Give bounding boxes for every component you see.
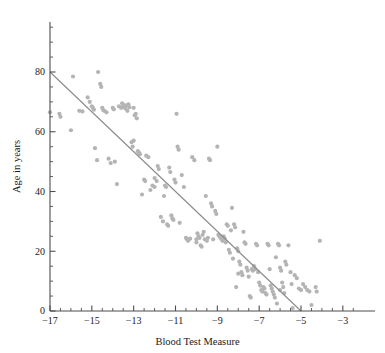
data-point — [132, 106, 136, 110]
data-point — [228, 251, 232, 255]
data-point — [210, 204, 214, 208]
data-point — [135, 116, 139, 120]
data-point — [80, 109, 84, 113]
data-point — [112, 107, 116, 111]
data-point — [152, 176, 156, 180]
data-point — [214, 212, 218, 216]
data-point — [164, 185, 168, 189]
data-point — [115, 182, 119, 186]
data-point — [202, 230, 206, 234]
data-point — [284, 263, 288, 267]
data-point — [173, 180, 177, 184]
data-point — [113, 160, 117, 164]
data-point — [255, 243, 259, 247]
data-point — [178, 221, 182, 225]
data-point — [309, 303, 313, 307]
data-point — [286, 243, 290, 247]
data-point — [281, 285, 285, 289]
data-point — [166, 224, 170, 228]
data-point — [171, 218, 175, 222]
data-point — [246, 269, 250, 273]
y-axis-title: Age in years — [11, 140, 22, 193]
data-point — [92, 108, 96, 112]
data-point — [268, 267, 272, 271]
data-point — [279, 269, 283, 273]
data-point — [314, 285, 318, 289]
regression-line — [50, 72, 301, 311]
data-point — [204, 194, 208, 198]
data-point — [277, 243, 281, 247]
data-point — [226, 224, 230, 228]
data-point — [127, 105, 131, 109]
data-point — [247, 275, 251, 279]
data-point — [162, 194, 166, 198]
y-axis-tick-labels: 020406080 — [35, 66, 45, 316]
x-tick-label: −9 — [212, 315, 223, 326]
data-point — [318, 239, 322, 243]
data-point — [96, 70, 100, 74]
data-point — [236, 272, 240, 276]
data-point — [273, 295, 277, 299]
data-point — [152, 185, 156, 189]
data-point — [266, 243, 270, 247]
data-point — [249, 295, 253, 299]
data-point — [208, 158, 212, 162]
x-tick-label: −11 — [168, 315, 183, 326]
data-point — [71, 74, 75, 78]
data-point — [180, 173, 184, 177]
data-point — [58, 115, 62, 119]
data-point — [233, 225, 237, 229]
data-point — [274, 255, 278, 259]
data-point — [95, 158, 99, 162]
data-point — [93, 146, 97, 150]
data-point — [194, 240, 198, 244]
data-point — [182, 185, 186, 189]
data-point — [230, 206, 234, 210]
y-tick-label: 80 — [35, 66, 45, 77]
data-point — [291, 306, 295, 310]
y-tick-label: 0 — [40, 305, 45, 316]
data-point — [132, 139, 136, 143]
y-tick-label: 20 — [35, 246, 45, 257]
data-point — [157, 167, 161, 171]
data-point — [148, 188, 152, 192]
x-tick-label: −15 — [84, 315, 100, 326]
y-axis — [50, 22, 56, 311]
x-tick-label: −5 — [296, 315, 307, 326]
data-point — [88, 100, 92, 104]
data-point — [104, 110, 108, 114]
data-point — [275, 301, 279, 305]
data-point — [167, 166, 171, 170]
data-point — [69, 128, 73, 132]
data-point — [211, 237, 215, 241]
data-point — [240, 273, 244, 277]
data-point — [215, 145, 219, 149]
data-point — [206, 236, 210, 240]
data-point — [262, 286, 266, 290]
data-point — [125, 109, 129, 113]
data-point — [131, 145, 135, 149]
data-point — [188, 237, 192, 241]
x-axis-tick-labels: −17−15−13−11−9−7−5−3 — [42, 315, 348, 326]
data-point — [234, 285, 238, 289]
data-point — [288, 270, 292, 274]
data-point — [200, 245, 204, 249]
x-axis-title: Blood Test Measure — [155, 336, 240, 347]
x-tick-label: −13 — [126, 315, 142, 326]
regression-line-path — [50, 72, 301, 311]
data-point — [86, 95, 90, 99]
data-point — [315, 289, 319, 293]
y-tick-label: 60 — [35, 126, 45, 137]
data-point — [264, 292, 268, 296]
data-point — [299, 288, 303, 292]
data-point — [307, 289, 311, 293]
data-point — [168, 170, 172, 174]
x-tick-label: −3 — [338, 315, 349, 326]
data-point — [161, 219, 165, 223]
data-point — [106, 157, 110, 161]
data-point — [231, 257, 235, 261]
data-point — [229, 228, 233, 232]
data-point — [241, 230, 245, 234]
data-point — [134, 112, 138, 116]
data-point — [140, 192, 144, 196]
